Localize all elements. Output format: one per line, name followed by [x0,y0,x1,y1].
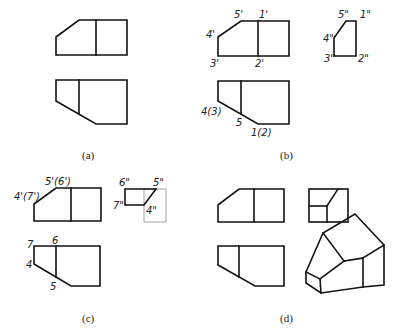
label-4prime-7prime: 4'(7') [14,191,40,202]
label-5prime-6prime: 5'(6') [45,176,71,187]
caption-d: (d) [280,312,293,325]
front-view-c: 5'(6') 4'(7') [14,176,101,221]
label-4dprime: 4" [323,33,334,44]
side-view-b: 5" 1" 4" 3" 2" [323,9,371,64]
label-1-2: 1(2) [251,127,272,138]
front-view-d [218,189,284,222]
panel-a: (a) [56,20,127,162]
label-3dprime: 3" [324,53,335,64]
label-4-3: 4(3) [201,106,222,117]
caption-a: (a) [82,149,95,162]
label-6dprime: 6" [119,177,130,188]
side-view-c: 6" 5" 7" 4" [113,177,166,222]
label-6: 6 [52,235,58,246]
panel-c: 5'(6') 4'(7') 6" 5" 7" 4" 7 6 4 5 (c) [14,176,166,325]
caption-b: (b) [280,149,293,162]
caption-c: (c) [82,312,95,325]
side-view-d [309,189,348,222]
orthographic-projection-figure: (a) 5' 1' 4' 3' 2' 5" 1" 4" 3" 2" 4(3) 5… [0,0,394,330]
label-7dprime: 7" [113,200,124,211]
top-view-b: 4(3) 5 1(2) [201,81,289,138]
top-view-c: 7 6 4 5 [26,235,100,292]
label-5dprime: 5" [338,9,349,20]
panel-b: 5' 1' 4' 3' 2' 5" 1" 4" 3" 2" 4(3) 5 1(2… [201,9,371,162]
label-1prime: 1' [259,9,268,20]
label-4: 4 [26,259,32,270]
isometric-view-d [306,214,384,293]
label-2dprime: 2" [358,53,369,64]
label-5-c: 5 [50,281,56,292]
label-7: 7 [27,239,34,250]
front-view-a [56,20,127,55]
label-5: 5 [236,117,242,128]
panel-d: (d) [218,189,384,325]
label-2prime: 2' [255,58,264,69]
label-3prime: 3' [210,58,219,69]
label-1dprime: 1" [360,9,371,20]
front-view-b: 5' 1' 4' 3' 2' [206,9,289,69]
label-5prime: 5' [234,9,243,20]
top-view-a [56,80,127,124]
label-5dprime-c: 5" [153,177,164,188]
label-4dprime-c: 4" [146,205,157,216]
label-4prime: 4' [206,29,215,40]
top-view-d [218,246,284,286]
